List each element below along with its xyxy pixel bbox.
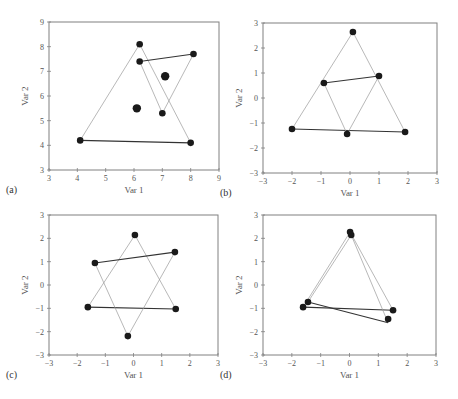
y-tick-label: 0 [254,94,258,103]
panel-label: (c) [6,369,17,381]
y-tick-label: −1 [249,119,258,128]
y-tick-label: −2 [249,144,258,153]
thin-segment [324,83,347,134]
x-tick-label: 1 [376,359,380,368]
thin-segment [303,232,350,307]
thin-segment [140,44,191,143]
y-tick-label: −2 [249,328,258,337]
y-tick-label: 0 [254,281,258,290]
x-tick-label: 1 [377,177,381,186]
thin-segment [135,235,176,309]
data-point [321,80,328,87]
data-point [376,73,383,80]
x-tick-label: 3 [434,359,438,368]
x-tick-label: −1 [317,177,326,186]
y-tick-label: −1 [249,304,258,313]
thin-segment [353,32,405,132]
panel-a: 34567893456789Var 1Var 2(a) [6,18,221,196]
data-point [136,58,143,65]
y-tick-label: 7 [40,67,44,76]
x-tick-label: −1 [316,359,325,368]
x-tick-label: 0 [132,359,136,368]
y-axis-label: Var 2 [234,275,244,294]
data-point [300,304,307,311]
thin-segment [88,235,135,307]
y-tick-label: 3 [254,19,258,28]
data-point [125,333,132,340]
x-axis-label: Var 1 [340,370,359,380]
y-tick-label: 2 [254,44,258,53]
y-tick-label: −1 [35,304,44,313]
data-point [85,304,92,311]
x-tick-label: 2 [406,177,410,186]
y-tick-label: 8 [40,43,44,52]
panel-label: (a) [6,184,17,196]
y-tick-label: 2 [254,234,258,243]
panel-b: −3−2−10123−3−2−10123Var 1Var 2(b) [220,19,439,199]
data-point [92,260,99,267]
y-tick-label: 9 [40,18,44,27]
data-point [289,126,296,133]
data-point [132,232,139,239]
x-tick-label: −3 [259,177,268,186]
y-tick-label: 3 [40,211,44,220]
y-axis-label: Var 2 [20,275,30,294]
data-point [159,110,166,117]
thick-segment [308,302,388,323]
data-point [348,232,355,239]
data-point [402,129,409,136]
x-tick-label: 9 [217,174,221,183]
x-tick-label: 8 [189,174,193,183]
y-tick-label: 0 [40,281,44,290]
y-tick-label: −3 [35,351,44,360]
thin-segment [140,61,163,113]
thin-segment [162,54,193,113]
thick-segment [80,140,191,142]
centroid-point [133,104,141,112]
x-tick-label: 1 [160,359,164,368]
thin-segment [95,263,128,336]
figure: 34567893456789Var 1Var 2(a) −3−2−10123−3… [0,0,458,399]
y-tick-label: 5 [40,117,44,126]
x-tick-label: −2 [288,359,297,368]
data-point [344,131,351,138]
data-point [305,299,312,306]
thick-segment [95,252,175,263]
data-point [350,29,357,36]
panel-d: −3−2−10123−3−2−10123Var 1Var 2(d) [220,211,438,381]
thick-segment [140,54,194,61]
x-tick-label: 0 [348,359,352,368]
thick-segment [324,76,379,83]
x-tick-label: −3 [45,359,54,368]
y-tick-label: 1 [254,258,258,267]
x-tick-label: 6 [132,174,136,183]
x-tick-label: 5 [104,174,108,183]
thin-segment [80,44,140,140]
thick-segment [303,307,393,310]
y-tick-label: 4 [40,141,44,150]
x-tick-label: 4 [75,174,79,183]
data-point [390,307,397,314]
thin-segment [347,76,379,134]
y-axis-label: Var 2 [20,86,30,105]
x-tick-label: 2 [188,359,192,368]
x-tick-label: −2 [73,359,82,368]
data-point [385,316,392,323]
data-point [190,51,197,58]
data-point [77,137,84,144]
x-axis-label: Var 1 [340,188,359,198]
x-tick-label: −1 [101,359,110,368]
x-axis-label: Var 1 [124,370,143,380]
x-tick-label: 3 [216,359,220,368]
x-tick-label: 2 [405,359,409,368]
y-tick-label: −2 [35,328,44,337]
data-point [187,140,194,147]
y-tick-label: 2 [40,234,44,243]
x-tick-label: 7 [160,174,164,183]
y-tick-label: 1 [254,69,258,78]
thin-segment [308,235,351,302]
x-tick-label: 3 [47,174,51,183]
y-tick-label: −3 [249,351,258,360]
thin-segment [350,232,393,310]
centroid-point [161,72,169,80]
